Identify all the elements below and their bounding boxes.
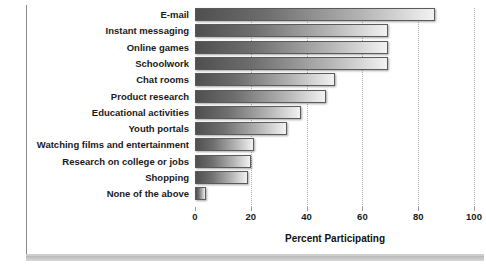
category-label: Watching films and entertainment: [0, 138, 189, 151]
category-label: E-mail: [0, 8, 189, 21]
plot-area: [195, 8, 474, 207]
x-tick-label-80: 80: [398, 211, 438, 222]
category-label: Research on college or jobs: [0, 155, 189, 168]
bar: [195, 106, 301, 119]
bar: [195, 187, 206, 200]
bar-row: [195, 187, 474, 200]
bar-row: [195, 73, 474, 86]
category-label: Instant messaging: [0, 24, 189, 37]
bar-row: [195, 41, 474, 54]
category-label: Shopping: [0, 171, 189, 184]
bar-row: [195, 57, 474, 70]
category-label: Schoolwork: [0, 57, 189, 70]
category-label: Youth portals: [0, 122, 189, 135]
category-label: Product research: [0, 90, 189, 103]
bar: [195, 155, 251, 168]
bar: [195, 138, 254, 151]
bar-row: [195, 138, 474, 151]
bar: [195, 41, 388, 54]
bar: [195, 24, 388, 37]
bar-row: [195, 155, 474, 168]
x-tick-label-20: 20: [231, 211, 271, 222]
bar: [195, 90, 326, 103]
bar: [195, 171, 248, 184]
bar-row: [195, 171, 474, 184]
category-label: Online games: [0, 41, 189, 54]
bar-row: [195, 106, 474, 119]
chart-figure: E-mailInstant messagingOnline gamesSchoo…: [0, 0, 486, 264]
bar: [195, 73, 335, 86]
bar-row: [195, 24, 474, 37]
bar: [195, 8, 435, 21]
category-label: None of the above: [0, 187, 189, 200]
x-tick-label-60: 60: [342, 211, 382, 222]
x-axis-title: Percent Participating: [195, 233, 475, 244]
x-tick-label-0: 0: [175, 211, 215, 222]
bar-row: [195, 90, 474, 103]
bar: [195, 57, 388, 70]
figure-top-border: [26, 4, 466, 5]
bar: [195, 122, 287, 135]
gridline-100: [474, 8, 475, 207]
figure-drop-shadow: [26, 256, 484, 261]
bar-row: [195, 122, 474, 135]
bar-row: [195, 8, 474, 21]
category-label: Chat rooms: [0, 73, 189, 86]
x-tick-label-100: 100: [454, 211, 486, 222]
x-tick-label-40: 40: [287, 211, 327, 222]
category-label: Educational activities: [0, 106, 189, 119]
